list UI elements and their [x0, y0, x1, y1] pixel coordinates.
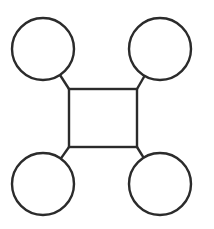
connector-top-right — [137, 76, 145, 89]
circle-node-bottom-right — [129, 153, 191, 215]
diagram-canvas — [0, 0, 214, 229]
connector-top-left — [60, 75, 69, 89]
connector-bottom-right — [137, 147, 144, 158]
circle-node-top-left — [12, 18, 74, 80]
circle-node-bottom-left — [12, 153, 74, 215]
circle-node-top-right — [129, 18, 191, 80]
center-square-node — [69, 89, 137, 147]
connector-bottom-left — [61, 147, 69, 159]
